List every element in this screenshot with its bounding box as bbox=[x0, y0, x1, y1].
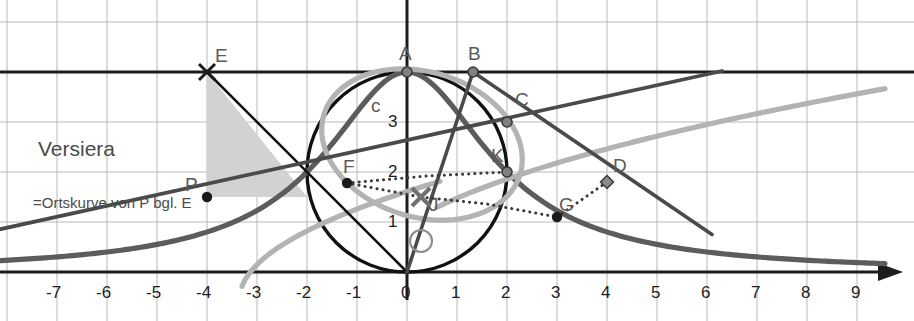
figure-canvas: EPABCDFKJGc-7-6-5-4-3-2-10123456789123 V… bbox=[0, 0, 914, 321]
geometry-svg bbox=[0, 0, 914, 321]
figure-title: Versiera bbox=[38, 138, 115, 159]
point-marker-F[interactable] bbox=[342, 178, 352, 188]
x-tick--5: -5 bbox=[146, 284, 161, 301]
x-tick-8: 8 bbox=[801, 284, 810, 301]
point-marker-B[interactable] bbox=[468, 67, 478, 77]
x-tick-1: 1 bbox=[451, 284, 460, 301]
x-tick-2: 2 bbox=[501, 284, 510, 301]
x-tick-9: 9 bbox=[851, 284, 860, 301]
x-tick-6: 6 bbox=[701, 284, 710, 301]
ray-B-through-C-D bbox=[473, 72, 712, 235]
point-label-J: J bbox=[429, 195, 439, 214]
figure-subtitle: =Ortskurve von P bgl. E bbox=[33, 195, 192, 210]
y-tick-3: 3 bbox=[388, 113, 397, 130]
x-tick--4: -4 bbox=[196, 284, 211, 301]
x-tick--2: -2 bbox=[296, 284, 311, 301]
x-tick-4: 4 bbox=[601, 284, 610, 301]
dotted-F-K bbox=[347, 172, 507, 183]
point-label-G: G bbox=[559, 195, 574, 214]
y-tick-2: 2 bbox=[388, 163, 397, 180]
point-label-B: B bbox=[468, 44, 481, 63]
x-tick--3: -3 bbox=[246, 284, 261, 301]
point-marker-P[interactable] bbox=[202, 192, 212, 202]
point-marker-K[interactable] bbox=[502, 167, 512, 177]
x-tick-3: 3 bbox=[551, 284, 560, 301]
x-tick-7: 7 bbox=[751, 284, 760, 301]
point-label-D: D bbox=[613, 156, 627, 175]
x-tick--6: -6 bbox=[96, 284, 111, 301]
x-tick--1: -1 bbox=[346, 284, 361, 301]
curve-label-c: c bbox=[371, 96, 381, 115]
point-label-C: C bbox=[515, 90, 529, 109]
point-label-K: K bbox=[491, 146, 504, 165]
point-marker-C[interactable] bbox=[502, 117, 512, 127]
x-tick--7: -7 bbox=[46, 284, 61, 301]
point-label-A: A bbox=[399, 44, 412, 63]
point-label-P: P bbox=[185, 175, 198, 194]
x-tick-0: 0 bbox=[401, 284, 410, 301]
point-label-F: F bbox=[343, 157, 355, 176]
point-label-E: E bbox=[215, 46, 228, 65]
x-tick-5: 5 bbox=[651, 284, 660, 301]
point-marker-A[interactable] bbox=[402, 67, 412, 77]
y-tick-1: 1 bbox=[388, 213, 397, 230]
